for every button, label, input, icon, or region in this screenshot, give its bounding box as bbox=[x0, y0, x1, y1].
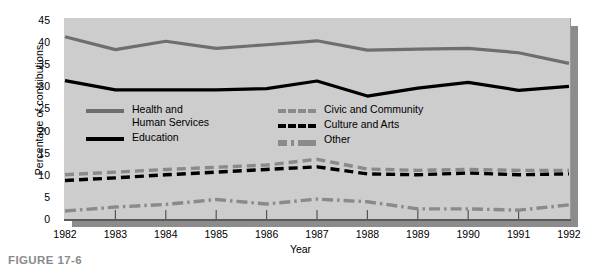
y-axis-ticks: 051015202530354045 bbox=[24, 13, 50, 229]
x-axis-line bbox=[64, 219, 571, 221]
legend-label: Culture and Arts bbox=[324, 118, 399, 131]
legend-label: Education bbox=[132, 131, 179, 144]
y-tick-label: 0 bbox=[24, 214, 50, 224]
x-tick-label: 1983 bbox=[90, 228, 140, 240]
legend-column-right: Civic and CommunityCulture and ArtsOther bbox=[278, 104, 488, 149]
y-tick-label: 20 bbox=[24, 126, 50, 136]
legend-label: Civic and Community bbox=[324, 103, 423, 116]
x-tick-label: 1984 bbox=[141, 228, 191, 240]
legend-swatch-icon bbox=[278, 124, 316, 128]
y-tick-label: 45 bbox=[24, 15, 50, 25]
x-axis-title: Year bbox=[0, 243, 601, 255]
x-axis-ticks: 1982198319841985198619871988198919901991… bbox=[0, 228, 601, 244]
figure-container: Percentage of contributions 051015202530… bbox=[0, 0, 601, 274]
legend-label: Other bbox=[324, 133, 350, 146]
y-tick-label: 10 bbox=[24, 170, 50, 180]
x-tick-label: 1991 bbox=[494, 228, 544, 240]
legend-entry: Culture and Arts bbox=[278, 119, 488, 134]
y-tick-label: 5 bbox=[24, 192, 50, 202]
legend-entry: Civic and Community bbox=[278, 104, 488, 119]
legend-swatch-icon bbox=[278, 109, 316, 113]
y-tick-label: 25 bbox=[24, 103, 50, 113]
series-line bbox=[65, 81, 569, 96]
legend-entry: Other bbox=[278, 134, 488, 149]
series-line bbox=[65, 167, 569, 181]
legend-column-left: Health and Human ServicesEducation bbox=[86, 104, 286, 147]
series-line bbox=[65, 37, 569, 64]
y-tick-label: 35 bbox=[24, 59, 50, 69]
x-tick-label: 1988 bbox=[342, 228, 392, 240]
figure-caption: FIGURE 17-6 bbox=[8, 254, 82, 266]
plot-shadow-right bbox=[570, 26, 578, 225]
y-tick-label: 15 bbox=[24, 148, 50, 158]
x-tick-label: 1992 bbox=[544, 228, 594, 240]
legend-entry: Health and Human Services bbox=[86, 104, 286, 132]
x-tick-label: 1990 bbox=[443, 228, 493, 240]
y-tick-label: 30 bbox=[24, 81, 50, 91]
x-tick-label: 1986 bbox=[242, 228, 292, 240]
x-tick-label: 1989 bbox=[393, 228, 443, 240]
legend-label: Health and Human Services bbox=[132, 103, 209, 129]
legend-swatch-icon bbox=[278, 140, 316, 146]
legend-swatch-icon bbox=[86, 109, 124, 113]
series-line bbox=[65, 199, 569, 211]
legend-entry: Education bbox=[86, 132, 286, 147]
y-tick-label: 40 bbox=[24, 37, 50, 47]
legend-swatch-icon bbox=[86, 137, 124, 141]
x-tick-label: 1987 bbox=[292, 228, 342, 240]
plot-area: Health and Human ServicesEducation Civic… bbox=[64, 18, 571, 220]
x-tick-label: 1982 bbox=[40, 228, 90, 240]
x-tick-label: 1985 bbox=[191, 228, 241, 240]
